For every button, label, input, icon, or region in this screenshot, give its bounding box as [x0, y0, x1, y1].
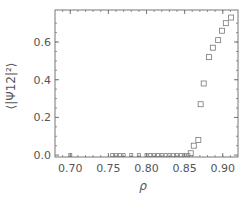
- data-point-square: [191, 143, 196, 148]
- x-tick-label: 0.85: [172, 162, 197, 175]
- x-tick-label: 0.70: [58, 162, 83, 175]
- data-point-square: [196, 138, 201, 143]
- x-tick-label: 0.80: [134, 162, 159, 175]
- y-tick-label: 0.4: [34, 74, 52, 87]
- data-point-square: [207, 55, 212, 60]
- plot-frame: [55, 10, 238, 157]
- y-tick-label: 0.2: [34, 111, 52, 124]
- x-axis-ticks: 0.700.750.800.850.90: [58, 10, 235, 175]
- data-point-square: [156, 154, 159, 157]
- data-point-square: [219, 28, 224, 33]
- data-point-square: [201, 81, 206, 86]
- data-point-square: [229, 15, 234, 20]
- data-point-square: [223, 21, 228, 26]
- data-point-square: [149, 154, 152, 157]
- data-point-square: [118, 154, 121, 157]
- x-tick-label: 0.75: [96, 162, 121, 175]
- y-tick-label: 0.6: [34, 36, 52, 49]
- data-point-square: [172, 154, 175, 157]
- data-point-square: [179, 154, 182, 157]
- data-point-square: [210, 45, 215, 50]
- x-tick-label: 0.90: [211, 162, 236, 175]
- data-points: [69, 15, 234, 157]
- y-axis-ticks: 0.00.20.40.6: [34, 23, 239, 162]
- scatter-chart: 0.700.750.800.850.90 0.00.20.40.6 ρ ⟨|Ψ1…: [0, 0, 252, 200]
- x-axis-label: ρ: [139, 179, 147, 193]
- y-axis-label: ⟨|Ψ12|²⟩: [4, 63, 18, 110]
- y-tick-label: 0.0: [34, 149, 52, 162]
- data-point-square: [198, 102, 203, 107]
- data-point-square: [164, 154, 167, 157]
- data-point-square: [216, 38, 221, 43]
- data-point-square: [111, 154, 114, 157]
